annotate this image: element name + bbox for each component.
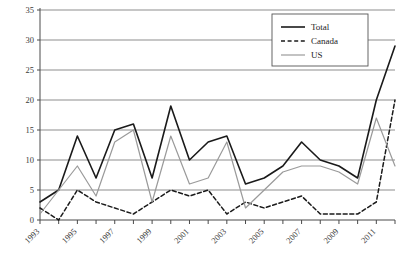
y-tick-label: 30 (26, 35, 35, 45)
y-tick-label: 0 (30, 215, 34, 225)
legend: TotalCanadaUS (272, 14, 368, 66)
y-tick-label: 5 (30, 185, 34, 195)
chart-canvas: 05101520253035 1993199519971999200120032… (0, 0, 403, 268)
y-tick-label: 15 (26, 125, 35, 135)
legend-label-us: US (311, 50, 323, 60)
legend-label-canada: Canada (311, 36, 338, 46)
line-chart: 05101520253035 1993199519971999200120032… (0, 0, 403, 268)
y-tick-label: 20 (26, 95, 35, 105)
y-tick-label: 10 (26, 155, 35, 165)
legend-label-total: Total (311, 22, 330, 32)
y-tick-label: 35 (26, 5, 35, 15)
y-tick-label: 25 (26, 65, 35, 75)
